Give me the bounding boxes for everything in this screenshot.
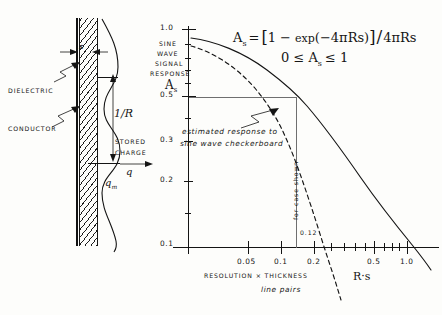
annotation-estimate-line-2: sine wave checkerboard [180, 140, 283, 148]
label-one-over-R: 1/R [114, 107, 133, 120]
label-stored: STORED [115, 139, 146, 146]
cross-section-diagram: s DIELECTRIC CONDUCTOR 1/R STORED CHARGE [0, 0, 175, 315]
curve-checkerboard-estimate [191, 46, 341, 300]
equation-equals: = [247, 30, 262, 45]
curve-sine-wave-response [191, 38, 431, 270]
label-charge: CHARGE [115, 150, 147, 157]
label-qm-subscript: m [111, 183, 117, 190]
label-dielectric: DIELECTRIC [8, 88, 53, 95]
equation-constraint: 0 ≤ As≤ 1 [281, 50, 348, 68]
thickness-dimension-s [58, 44, 110, 60]
figure-root: s DIELECTRIC CONDUCTOR 1/R STORED CHARGE [0, 0, 442, 315]
equation-main: As=[1 − exp(−4πRs)]/4πRs [233, 26, 416, 48]
equation-lhs-subscript: s [242, 39, 246, 48]
dielectric-leader-arrow [52, 60, 92, 86]
label-q: q [126, 166, 132, 177]
equation-lhs: A [233, 30, 242, 45]
stored-charge-baseline [88, 163, 120, 164]
constraint-lhs: 0 ≤ A [281, 50, 318, 65]
label-qm: qm [105, 177, 117, 190]
annotation-estimate-line-1: estimated response to [182, 128, 278, 136]
equation-paren: (−4πRs) [315, 30, 369, 45]
stored-charge-q-arrow [118, 158, 156, 170]
equation-denominator: 4πRs [383, 30, 416, 45]
label-conductor: CONDUCTOR [8, 126, 56, 133]
tick-1overR-top [98, 77, 118, 78]
equation-one-minus: 1 − [268, 30, 295, 45]
response-chart: 1.0 0.5 0.3 0.2 0.1 SINE WAVE SIGNAL RES… [155, 8, 442, 315]
label-thickness-s: s [79, 43, 84, 51]
equation-exp: exp [295, 32, 315, 45]
label-q-text: q [126, 166, 132, 177]
constraint-rhs: ≤ 1 [322, 50, 348, 65]
equation-slash: / [375, 26, 383, 46]
